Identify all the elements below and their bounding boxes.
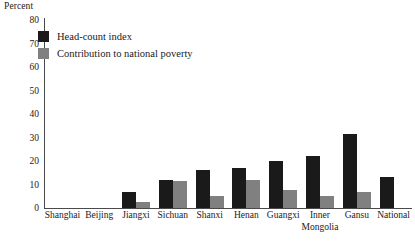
x-axis-category-label: Henan [234, 210, 259, 222]
x-axis-category-label: National [377, 210, 410, 222]
bar [173, 181, 187, 208]
y-axis-tick-label: 10 [9, 180, 39, 190]
bar-pair [375, 20, 412, 208]
bar-pair [44, 20, 81, 208]
bar-group: Henan [228, 20, 265, 208]
y-axis-tick-label: 0 [9, 203, 39, 213]
bar [159, 180, 173, 208]
bar [380, 177, 394, 208]
x-axis-category-label: Shanghai [45, 210, 80, 222]
bar-group: Gansu [338, 20, 375, 208]
bar-pair [81, 20, 118, 208]
bar-group: Sichuan [154, 20, 191, 208]
bar-pair [338, 20, 375, 208]
y-axis-tick-label: 20 [9, 156, 39, 166]
bar [269, 161, 283, 208]
bar [343, 134, 357, 208]
x-axis-category-label: Jiangxi [122, 210, 149, 222]
bar [357, 192, 371, 208]
bar-pair [265, 20, 302, 208]
bar-group: Inner Mongolia [302, 20, 339, 208]
bar-group: Jiangxi [118, 20, 155, 208]
bar [283, 190, 297, 208]
bar [210, 196, 224, 208]
bar-group: Guangxi [265, 20, 302, 208]
y-axis-tick-label: 30 [9, 133, 39, 143]
y-axis-tick-label: 80 [9, 15, 39, 25]
bar [136, 202, 150, 208]
y-axis-tick-label: 40 [9, 109, 39, 119]
x-axis-category-label: Beijing [85, 210, 113, 222]
bar-pair [302, 20, 339, 208]
y-axis-tick-label: 70 [9, 39, 39, 49]
x-axis-category-label: Inner Mongolia [292, 210, 348, 233]
bar [232, 168, 246, 208]
bar-pair [154, 20, 191, 208]
bar [320, 196, 334, 208]
bar [122, 192, 136, 208]
bar-group: Shanxi [191, 20, 228, 208]
x-axis-category-label: Gansu [345, 210, 369, 222]
x-axis-category-label: Shanxi [196, 210, 222, 222]
bar-chart: Percent 01020304050607080 Head-count ind… [0, 0, 415, 246]
bar [246, 180, 260, 208]
y-axis-tick-label: 60 [9, 62, 39, 72]
bar-pair [118, 20, 155, 208]
bar-group: Beijing [81, 20, 118, 208]
bar-pair [228, 20, 265, 208]
x-axis-category-label: Sichuan [157, 210, 188, 222]
bars-layer: ShanghaiBeijingJiangxiSichuanShanxiHenan… [44, 0, 412, 246]
bar-group: National [375, 20, 412, 208]
bar-group: Shanghai [44, 20, 81, 208]
bar [196, 170, 210, 208]
y-axis-tick-label: 50 [9, 86, 39, 96]
y-axis-title: Percent [4, 1, 33, 12]
bar [306, 156, 320, 208]
bar-pair [191, 20, 228, 208]
